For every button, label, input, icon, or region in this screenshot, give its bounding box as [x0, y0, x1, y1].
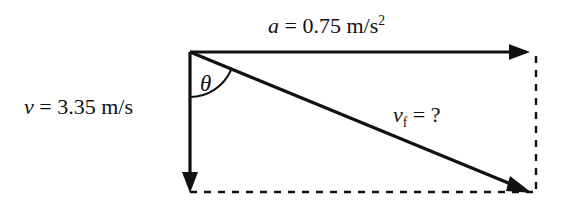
velocity-label: v = 3.35 m/s [24, 96, 133, 118]
velocity-equals: = [34, 94, 57, 119]
diagram-canvas: a = 0.75 m/s2 v = 3.35 m/s vf = ? θ [0, 0, 573, 222]
velocity-arrowhead-icon [182, 172, 198, 193]
acceleration-unit: m/s [346, 13, 378, 38]
acceleration-symbol: a [268, 13, 279, 38]
acceleration-label: a = 0.75 m/s2 [268, 14, 385, 37]
angle-label: θ [200, 72, 211, 95]
final-velocity-value: ? [431, 102, 441, 127]
final-velocity-label: vf = ? [393, 104, 441, 130]
velocity-unit: m/s [101, 94, 133, 119]
acceleration-value: 0.75 [302, 13, 341, 38]
acceleration-arrowhead-icon [509, 44, 530, 60]
velocity-symbol: v [24, 94, 34, 119]
final-velocity-symbol: v [393, 102, 403, 127]
velocity-value: 3.35 [57, 94, 96, 119]
final-velocity-equals: = [407, 102, 430, 127]
acceleration-unit-exponent: 2 [378, 13, 385, 28]
acceleration-equals: = [279, 13, 302, 38]
resultant-arrowhead-icon [506, 176, 532, 193]
resultant-vector-line [190, 52, 513, 185]
